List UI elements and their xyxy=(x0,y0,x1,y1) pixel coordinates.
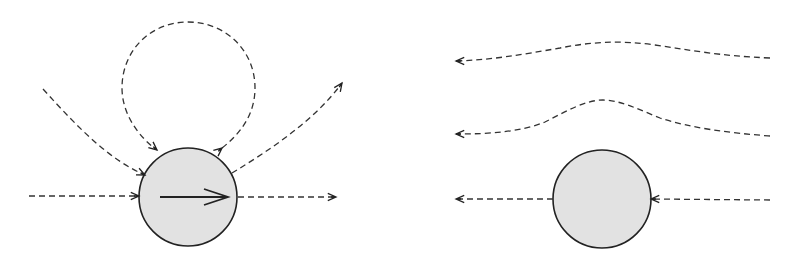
right-trajectory-top-streamline xyxy=(456,42,770,61)
arrowhead-icon xyxy=(456,130,464,137)
diagram-svg xyxy=(0,0,807,268)
right-body-circle xyxy=(553,150,651,248)
arrowhead-icon xyxy=(136,168,145,175)
right-trajectory-middle-streamline xyxy=(456,100,770,136)
right-panel xyxy=(456,42,770,248)
arrowhead-icon xyxy=(456,57,464,64)
arrowhead-icon xyxy=(213,148,222,156)
left-panel xyxy=(29,22,342,246)
left-trajectory-diagonal-incoming xyxy=(43,89,145,175)
arrowhead-icon xyxy=(148,142,157,150)
diagram-canvas: Scattering trajectories around moving bo… xyxy=(0,0,807,268)
left-trajectory-outgoing-curve xyxy=(232,83,342,173)
left-trajectory-loop xyxy=(122,22,255,150)
right-trajectory-incoming-horizontal xyxy=(651,199,770,200)
